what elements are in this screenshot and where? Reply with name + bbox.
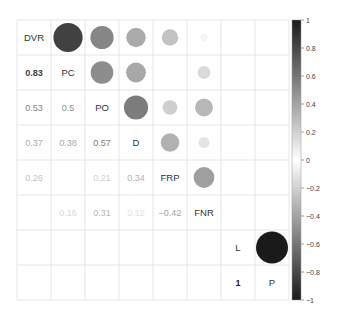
- colorbar-tick-label: −0.2: [306, 185, 320, 192]
- correlation-circle: [161, 133, 180, 152]
- correlation-circle: [91, 61, 114, 84]
- upper-triangle-circles: [53, 23, 288, 264]
- variable-label: L: [235, 242, 240, 253]
- correlation-value: 0.83: [25, 68, 43, 78]
- correlation-value: −0.42: [159, 208, 182, 218]
- variable-label: PC: [61, 67, 74, 78]
- variable-label: D: [133, 137, 140, 148]
- colorbar-tick-label: −0.6: [306, 241, 320, 248]
- correlation-value: 0.12: [127, 208, 145, 218]
- correlation-circle: [162, 29, 178, 45]
- correlation-circle: [200, 34, 207, 41]
- colorbar-tick-label: 1: [306, 17, 310, 24]
- correlation-value: 0.37: [25, 138, 43, 148]
- correlation-value: 0.5: [62, 103, 75, 113]
- correlation-circle: [163, 100, 178, 115]
- colorbar-tick-label: −1: [306, 297, 314, 304]
- variable-label: FRP: [161, 172, 180, 183]
- correlation-plot: DVRPCPODFRPFNRLP 0.830.530.50.370.380.57…: [0, 0, 337, 315]
- colorbar-tick-label: 0.6: [306, 73, 316, 80]
- variable-label: P: [269, 277, 275, 288]
- colorbar-tick-label: 0: [306, 157, 310, 164]
- correlation-value: 0.34: [127, 173, 145, 183]
- correlation-circle: [199, 137, 210, 148]
- correlation-value: 0.21: [93, 173, 111, 183]
- correlation-circle: [90, 26, 113, 49]
- correlation-value: 0.16: [59, 208, 77, 218]
- correlation-circle: [256, 232, 288, 264]
- correlation-value: 1: [235, 278, 240, 288]
- colorbar: [292, 20, 301, 300]
- correlation-value: 0.31: [93, 208, 111, 218]
- variable-label: FNR: [194, 207, 214, 218]
- colorbar-tick-label: −0.8: [306, 269, 320, 276]
- correlation-value: 0.53: [25, 103, 43, 113]
- correlation-circle: [126, 28, 145, 47]
- correlation-circle: [195, 99, 213, 117]
- correlation-value: 0.38: [59, 138, 77, 148]
- colorbar-ticks: 10.80.60.40.20−0.2−0.4−0.6−0.8−1: [301, 17, 320, 304]
- variable-label: DVR: [24, 32, 44, 43]
- correlation-circle: [126, 63, 146, 83]
- correlation-value: 0.26: [25, 173, 43, 183]
- matrix-grid: [17, 20, 289, 300]
- colorbar-tick-label: 0.4: [306, 101, 316, 108]
- colorbar-tick-label: 0.2: [306, 129, 316, 136]
- correlation-circle: [198, 66, 211, 79]
- colorbar-tick-label: −0.4: [306, 213, 320, 220]
- correlation-circle: [53, 23, 82, 52]
- correlation-value: 0.57: [93, 138, 111, 148]
- correlation-circle: [124, 95, 148, 119]
- variable-label: PO: [95, 102, 109, 113]
- correlation-circle: [194, 167, 215, 188]
- colorbar-tick-label: 0.8: [306, 45, 316, 52]
